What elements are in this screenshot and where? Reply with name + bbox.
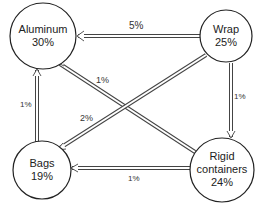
edge-label-rigid-bags: 1% (128, 174, 140, 183)
arrowhead-icon (77, 31, 84, 41)
edge-label-wrap-aluminum: 5% (129, 20, 143, 31)
node-aluminum-label: Aluminum 30% (8, 23, 78, 49)
edge-wrap-to-bags (57, 55, 206, 150)
arrowhead-icon (227, 131, 235, 138)
node-aluminum-name: Aluminum (8, 23, 78, 36)
node-rigid-value: 24% (187, 176, 257, 189)
edge-label-wrap-bags: 2% (80, 113, 93, 123)
edge-wrap-to-aluminum (77, 31, 200, 41)
arrowhead-icon (71, 164, 78, 172)
node-rigid-label: Rigid containers 24% (187, 150, 257, 189)
edge-label-wrap-rigid: 1% (234, 92, 246, 101)
edge-label-rigid-aluminum: 1% (96, 75, 109, 85)
edge-label-bags-aluminum: 1% (20, 100, 32, 109)
node-wrap-label: Wrap 25% (196, 23, 256, 49)
node-rigid-name-line2: containers (187, 163, 257, 176)
node-rigid-name-line1: Rigid (187, 150, 257, 163)
edge-bags-to-aluminum (33, 69, 41, 142)
edge-rigid-to-bags (71, 164, 190, 172)
node-bags-value: 19% (12, 170, 72, 183)
node-bags-label: Bags 19% (12, 157, 72, 183)
node-aluminum-value: 30% (8, 36, 78, 49)
node-wrap-name: Wrap (196, 23, 256, 36)
node-bags-name: Bags (12, 157, 72, 170)
arrowhead-icon (33, 69, 41, 76)
node-wrap-value: 25% (196, 36, 256, 49)
